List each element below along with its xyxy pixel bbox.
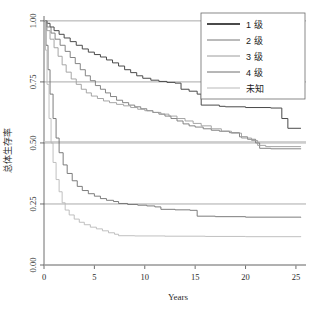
y-tick-label-2: 0.50 (28, 136, 38, 151)
legend-label-3: 3 级 (246, 51, 263, 62)
y-tick-label-3: 0.75 (28, 74, 38, 89)
y-tick-label-1: 0.25 (28, 197, 38, 212)
chart-root: 0.000.250.500.751.00 0510152025 总体生存率 Ye… (0, 0, 317, 318)
legend-label-1: 1 级 (246, 19, 263, 30)
legend[interactable]: 1 级2 级3 级4 级未知 (201, 13, 305, 99)
x-axis-title: Years (168, 292, 189, 302)
x-tick-label-1: 5 (92, 272, 96, 282)
legend-label-2: 2 级 (246, 35, 263, 46)
survival-curve-chart: 0.000.250.500.751.00 0510152025 总体生存率 Ye… (0, 0, 317, 318)
x-tick-label-2: 10 (141, 272, 150, 282)
y-tick-label-4: 1.00 (28, 13, 38, 28)
x-tick-label-3: 15 (191, 272, 200, 282)
y-tick-label-0: 0.00 (28, 258, 38, 273)
x-tick-label-0: 0 (42, 272, 46, 282)
legend-label-5: 未知 (246, 83, 264, 94)
x-tick-label-5: 25 (292, 272, 301, 282)
y-axis-title: 总体生存率 (2, 128, 13, 173)
x-tick-label-4: 20 (241, 272, 250, 282)
legend-label-4: 4 级 (246, 67, 263, 78)
